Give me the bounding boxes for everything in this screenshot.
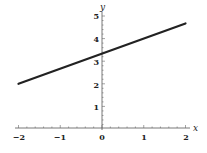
x-axis-label: x — [193, 123, 198, 133]
xtick-label: −2 — [13, 132, 25, 142]
y-axis-label: y — [99, 2, 106, 12]
ytick-label: 4 — [93, 34, 99, 44]
xtick-label: 1 — [141, 132, 147, 142]
chart: −2 −1 0 1 2 1 2 3 4 5 x y — [0, 0, 207, 153]
ytick-label: 3 — [93, 57, 99, 67]
ytick-label: 1 — [93, 102, 99, 112]
ytick-label: 5 — [93, 11, 99, 21]
xtick-label: 0 — [99, 132, 105, 142]
xtick-label: 2 — [183, 132, 189, 142]
xtick-label: −1 — [54, 132, 66, 142]
x-ticks — [19, 125, 186, 128]
y-ticks — [102, 16, 105, 124]
ytick-label: 2 — [93, 80, 99, 90]
